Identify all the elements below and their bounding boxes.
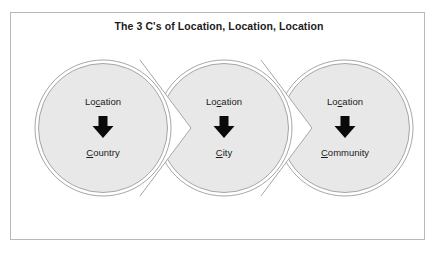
- node-community-top-label-before: Lo: [327, 96, 338, 107]
- node-community-top-label: Location: [285, 96, 405, 107]
- node-community-bottom-label-key: C: [321, 147, 328, 158]
- node-community-bottom-label-after: ommunity: [328, 147, 369, 158]
- diagram-canvas: The 3 C's of Location, Location, Locatio…: [0, 0, 438, 254]
- node-city-bottom-label-after: ity: [223, 147, 233, 158]
- node-country-top-label-after: ation: [100, 96, 121, 107]
- node-community-top-label-after: ation: [342, 96, 363, 107]
- node-country-bottom-label: Country: [43, 147, 163, 158]
- node-city-top-label-after: ation: [221, 96, 242, 107]
- node-country-bottom-label-after: ountry: [93, 147, 119, 158]
- node-city-bottom-label-key: C: [216, 147, 223, 158]
- node-city-top-label-before: Lo: [206, 96, 217, 107]
- node-city-top-label: Location: [164, 96, 284, 107]
- node-country-top-label-before: Lo: [85, 96, 96, 107]
- node-community-bottom-label: Community: [285, 147, 405, 158]
- node-city-bottom-label: City: [164, 147, 284, 158]
- node-country-top-label: Location: [43, 96, 163, 107]
- three-cs-diagram: [0, 0, 438, 254]
